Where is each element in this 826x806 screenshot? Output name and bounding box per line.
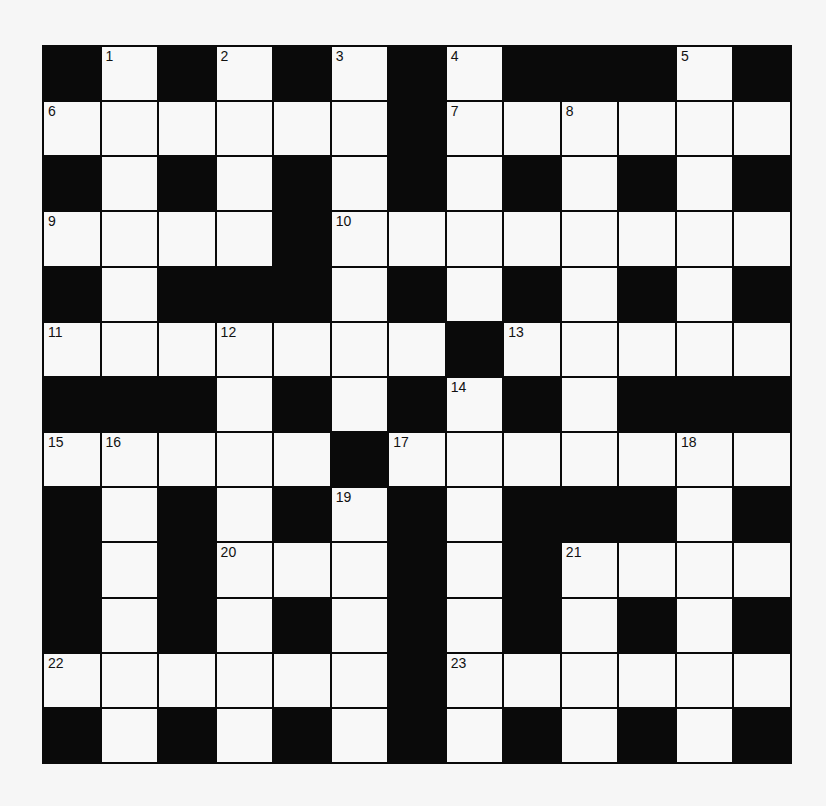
letter-cell[interactable] bbox=[447, 433, 503, 486]
letter-cell[interactable] bbox=[274, 102, 330, 155]
letter-cell[interactable] bbox=[389, 212, 445, 265]
letter-cell[interactable] bbox=[677, 488, 733, 541]
letter-cell[interactable] bbox=[562, 709, 618, 762]
letter-cell[interactable] bbox=[274, 323, 330, 376]
letter-cell[interactable] bbox=[332, 268, 388, 321]
letter-cell[interactable]: 8 bbox=[562, 102, 618, 155]
letter-cell[interactable]: 13 bbox=[504, 323, 560, 376]
letter-cell[interactable]: 6 bbox=[44, 102, 100, 155]
letter-cell[interactable] bbox=[217, 157, 273, 210]
letter-cell[interactable] bbox=[217, 488, 273, 541]
letter-cell[interactable] bbox=[677, 268, 733, 321]
letter-cell[interactable] bbox=[389, 323, 445, 376]
letter-cell[interactable] bbox=[447, 488, 503, 541]
letter-cell[interactable] bbox=[734, 212, 790, 265]
letter-cell[interactable]: 16 bbox=[102, 433, 158, 486]
letter-cell[interactable]: 10 bbox=[332, 212, 388, 265]
letter-cell[interactable] bbox=[619, 543, 675, 596]
letter-cell[interactable] bbox=[332, 654, 388, 707]
letter-cell[interactable] bbox=[332, 543, 388, 596]
letter-cell[interactable] bbox=[217, 102, 273, 155]
letter-cell[interactable] bbox=[447, 709, 503, 762]
letter-cell[interactable] bbox=[734, 323, 790, 376]
letter-cell[interactable] bbox=[619, 323, 675, 376]
letter-cell[interactable] bbox=[562, 433, 618, 486]
letter-cell[interactable] bbox=[102, 654, 158, 707]
letter-cell[interactable] bbox=[677, 157, 733, 210]
letter-cell[interactable] bbox=[102, 709, 158, 762]
letter-cell[interactable] bbox=[217, 599, 273, 652]
letter-cell[interactable] bbox=[562, 599, 618, 652]
letter-cell[interactable] bbox=[102, 323, 158, 376]
letter-cell[interactable] bbox=[447, 599, 503, 652]
letter-cell[interactable] bbox=[447, 543, 503, 596]
letter-cell[interactable] bbox=[619, 654, 675, 707]
letter-cell[interactable]: 11 bbox=[44, 323, 100, 376]
letter-cell[interactable] bbox=[102, 599, 158, 652]
letter-cell[interactable]: 20 bbox=[217, 543, 273, 596]
letter-cell[interactable] bbox=[274, 654, 330, 707]
letter-cell[interactable]: 12 bbox=[217, 323, 273, 376]
letter-cell[interactable] bbox=[619, 433, 675, 486]
letter-cell[interactable] bbox=[332, 709, 388, 762]
letter-cell[interactable]: 3 bbox=[332, 47, 388, 100]
letter-cell[interactable] bbox=[562, 212, 618, 265]
letter-cell[interactable]: 5 bbox=[677, 47, 733, 100]
letter-cell[interactable] bbox=[504, 212, 560, 265]
letter-cell[interactable]: 18 bbox=[677, 433, 733, 486]
letter-cell[interactable] bbox=[332, 599, 388, 652]
letter-cell[interactable] bbox=[619, 212, 675, 265]
letter-cell[interactable] bbox=[102, 268, 158, 321]
letter-cell[interactable] bbox=[677, 709, 733, 762]
letter-cell[interactable] bbox=[102, 212, 158, 265]
letter-cell[interactable] bbox=[447, 212, 503, 265]
letter-cell[interactable] bbox=[562, 654, 618, 707]
letter-cell[interactable] bbox=[217, 378, 273, 431]
letter-cell[interactable] bbox=[102, 488, 158, 541]
letter-cell[interactable] bbox=[677, 654, 733, 707]
letter-cell[interactable] bbox=[217, 433, 273, 486]
letter-cell[interactable]: 22 bbox=[44, 654, 100, 707]
letter-cell[interactable] bbox=[159, 212, 215, 265]
letter-cell[interactable] bbox=[332, 157, 388, 210]
letter-cell[interactable] bbox=[734, 543, 790, 596]
letter-cell[interactable] bbox=[102, 157, 158, 210]
letter-cell[interactable] bbox=[332, 323, 388, 376]
letter-cell[interactable] bbox=[734, 433, 790, 486]
letter-cell[interactable] bbox=[332, 378, 388, 431]
letter-cell[interactable] bbox=[677, 543, 733, 596]
letter-cell[interactable] bbox=[504, 654, 560, 707]
letter-cell[interactable] bbox=[677, 323, 733, 376]
letter-cell[interactable]: 1 bbox=[102, 47, 158, 100]
letter-cell[interactable] bbox=[504, 102, 560, 155]
letter-cell[interactable] bbox=[159, 323, 215, 376]
letter-cell[interactable] bbox=[217, 654, 273, 707]
letter-cell[interactable]: 23 bbox=[447, 654, 503, 707]
letter-cell[interactable]: 7 bbox=[447, 102, 503, 155]
letter-cell[interactable]: 4 bbox=[447, 47, 503, 100]
letter-cell[interactable] bbox=[734, 102, 790, 155]
letter-cell[interactable] bbox=[274, 543, 330, 596]
letter-cell[interactable]: 17 bbox=[389, 433, 445, 486]
letter-cell[interactable] bbox=[677, 102, 733, 155]
letter-cell[interactable] bbox=[562, 268, 618, 321]
letter-cell[interactable] bbox=[159, 102, 215, 155]
letter-cell[interactable] bbox=[619, 102, 675, 155]
letter-cell[interactable] bbox=[159, 654, 215, 707]
letter-cell[interactable] bbox=[447, 157, 503, 210]
letter-cell[interactable]: 15 bbox=[44, 433, 100, 486]
letter-cell[interactable] bbox=[677, 212, 733, 265]
letter-cell[interactable]: 14 bbox=[447, 378, 503, 431]
letter-cell[interactable] bbox=[734, 654, 790, 707]
letter-cell[interactable]: 9 bbox=[44, 212, 100, 265]
letter-cell[interactable] bbox=[562, 157, 618, 210]
letter-cell[interactable] bbox=[274, 433, 330, 486]
letter-cell[interactable] bbox=[102, 543, 158, 596]
letter-cell[interactable] bbox=[217, 709, 273, 762]
letter-cell[interactable] bbox=[159, 433, 215, 486]
letter-cell[interactable] bbox=[447, 268, 503, 321]
letter-cell[interactable] bbox=[332, 102, 388, 155]
letter-cell[interactable] bbox=[217, 212, 273, 265]
letter-cell[interactable]: 19 bbox=[332, 488, 388, 541]
letter-cell[interactable] bbox=[504, 433, 560, 486]
